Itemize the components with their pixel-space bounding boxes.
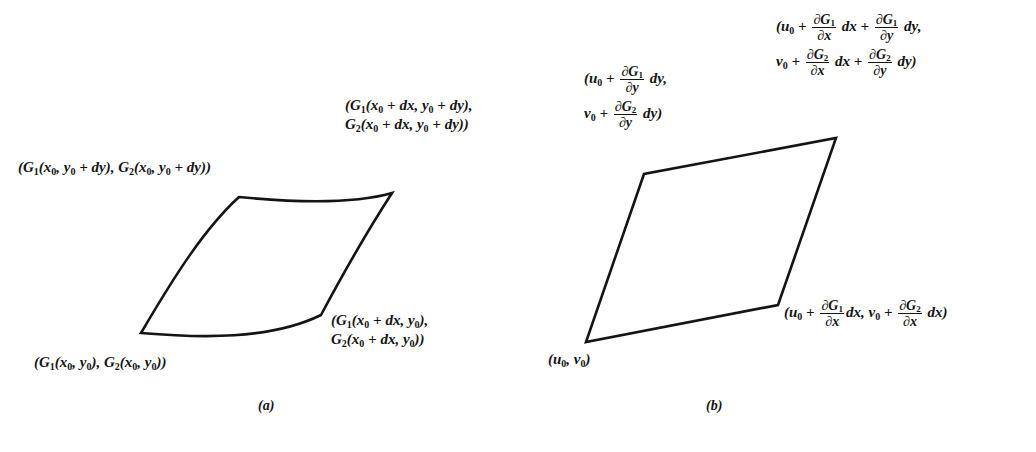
label-b-bottom-right: (u0 + ∂G1∂xdx, v0 + ∂G2∂x dx) [784, 298, 947, 329]
label-b-top-left: (u0 + ∂G1∂y dy, v0 + ∂G2∂y dy) [584, 64, 667, 130]
caption-panel-a: (a) [258, 398, 274, 414]
label-b-bottom-left: (u0, v0) [548, 352, 591, 367]
fraction-dG2-dy: ∂G2∂y [868, 47, 892, 78]
label-a-bottom-left: (G1(x0, y0), G2(x0, y0)) [34, 355, 167, 370]
fraction-dG2-dy: ∂G2∂y [614, 99, 638, 130]
fraction-dG1-dy: ∂G1∂y [875, 12, 899, 43]
label-a-top-left: (G1(x0, y0 + dy), G2(x0, y0 + dy)) [18, 160, 211, 175]
diagram-canvas: (G1(x0, y0 + dy), G2(x0, y0 + dy)) (G1(x… [0, 0, 1036, 452]
label-a-top-right: (G1(x0 + dx, y0 + dy), G2(x0 + dx, y0 + … [345, 98, 473, 132]
fraction-dG1-dy: ∂G1∂y [620, 64, 644, 95]
fraction-dG2-dx: ∂G2∂x [898, 298, 922, 329]
fraction-dG2-dx: ∂G2∂x [806, 47, 830, 78]
fraction-dG1-dx: ∂G1∂x [812, 12, 836, 43]
caption-panel-b: (b) [706, 398, 722, 414]
fraction-dG1-dx: ∂G1∂x [820, 298, 844, 329]
label-a-bottom-right: (G1(x0 + dx, y0), G2(x0 + dx, y0)) [331, 313, 428, 347]
label-b-top-right: (u0 + ∂G1∂x dx + ∂G1∂y dy, v0 + ∂G2∂x dx… [776, 12, 921, 78]
